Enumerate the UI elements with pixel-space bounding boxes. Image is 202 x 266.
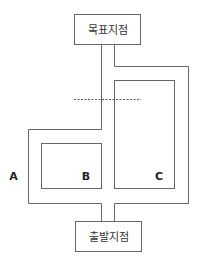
route-b-label: B [82, 170, 90, 183]
start-label: 출발지점 [89, 231, 129, 244]
block-b [42, 144, 102, 189]
route-c-label: C [155, 170, 163, 183]
block-c [115, 81, 175, 189]
goal-label: 목표지점 [88, 24, 128, 37]
start-point: 출발지점 [76, 222, 142, 252]
route-a-label: A [9, 170, 18, 183]
route-diagram: 목표지점 출발지점 A B C [0, 0, 202, 266]
goal-point: 목표지점 [75, 15, 141, 45]
route-a-outer-wall [29, 44, 102, 222]
